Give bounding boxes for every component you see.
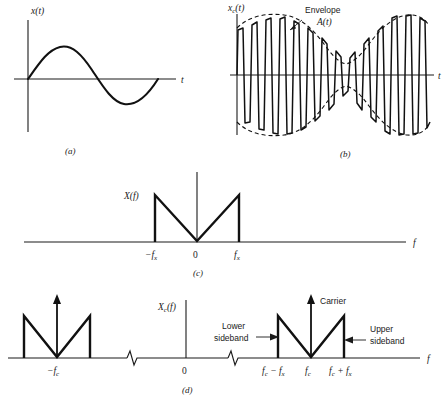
panel-d-lower-sideband-annotation-line1: Lower [222, 321, 245, 331]
panel-d-caption: (d) [182, 385, 193, 395]
panel-b-y-axis-label: xc(t) [227, 3, 244, 15]
panel-a-x-axis-label: t [181, 75, 184, 85]
panel-d-tick-label-fc-minus-fx: fc − fx [262, 366, 286, 378]
panel-b-modulated-carrier: xc(t) Envelope A(t) t (b) [212, 0, 445, 165]
panel-b-x-axis-label: t [438, 71, 441, 81]
panel-d-axis-break-left [127, 351, 139, 365]
panel-d-y-axis-label: Xc(f) [157, 302, 176, 314]
panel-d-axis-break-right [228, 351, 240, 365]
panel-a-y-axis-label: x(t) [30, 6, 44, 17]
panel-b-envelope-annotation-line1: Envelope [305, 5, 341, 15]
panel-d-tick-label-zero: 0 [182, 366, 187, 376]
panel-a-caption: (a) [65, 146, 76, 156]
panel-c-message-spectrum: X(f) −fx 0 fx f (c) [14, 170, 434, 285]
panel-b-caption: (b) [340, 149, 351, 159]
panel-d-upper-sideband-annotation-line2: sideband [370, 336, 405, 346]
panel-d-carrier-arrowhead-negative [53, 294, 61, 304]
panel-c-caption: (c) [193, 268, 203, 278]
panel-d-am-spectrum: Xc(f) −fc 0 fc − fx fc fc + fx Carrier L… [0, 288, 445, 409]
panel-c-tick-label-neg-fx: −fx [145, 250, 158, 262]
panel-c-y-axis-label: X(f) [123, 191, 139, 202]
panel-d-tick-label-neg-fc: −fc [47, 366, 60, 378]
panel-d-upper-sideband-annotation-line1: Upper [370, 324, 393, 334]
panel-d-carrier-annotation: Carrier [320, 296, 346, 306]
panel-a-message-curve [28, 47, 158, 105]
panel-d-carrier-arrowhead-positive [307, 294, 315, 304]
panel-d-tick-label-fc: fc [305, 366, 312, 378]
panel-d-f-axis-label: f [427, 354, 431, 364]
panel-a-time-waveform: x(t) t (a) [0, 0, 200, 165]
panel-d-upper-sideband-arrowhead [344, 337, 353, 344]
panel-d-tick-label-fc-plus-fx: fc + fx [329, 366, 353, 378]
panel-c-f-axis-label: f [413, 238, 417, 248]
panel-b-envelope-annotation-line2: A(t) [316, 17, 332, 28]
panel-c-tick-label-pos-fx: fx [234, 250, 241, 262]
figure-root: x(t) t (a) xc(t) Envelope A(t) t (b) [0, 0, 445, 409]
panel-d-lower-sideband-annotation-line2: sideband [214, 333, 249, 343]
panel-c-tick-label-zero: 0 [193, 250, 198, 260]
